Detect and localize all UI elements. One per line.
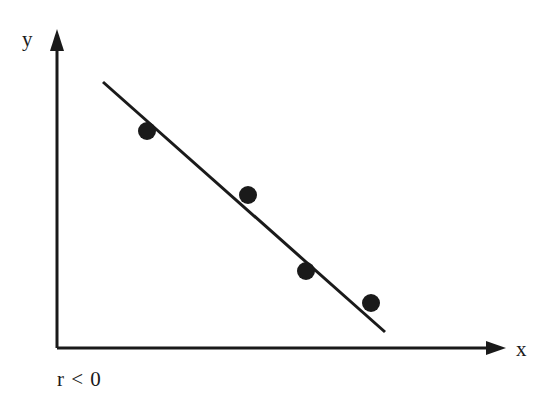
- data-point: [362, 294, 380, 312]
- x-axis-arrowhead-icon: [486, 341, 506, 355]
- data-point: [239, 186, 257, 204]
- correlation-annotation: r < 0: [57, 367, 102, 391]
- data-point: [138, 122, 156, 140]
- y-axis-arrowhead-icon: [50, 29, 64, 51]
- trend-line: [103, 82, 385, 332]
- x-axis-label: x: [516, 337, 527, 361]
- plot-canvas: y x r < 0: [0, 0, 550, 411]
- y-axis-label: y: [22, 27, 33, 51]
- data-point: [297, 262, 315, 280]
- scatter-plot-figure: y x r < 0: [0, 0, 550, 411]
